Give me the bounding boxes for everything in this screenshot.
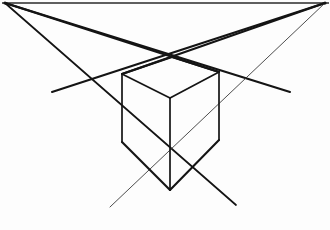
construction-lines-left-vp xyxy=(5,3,290,205)
left-vanishing-point-marker xyxy=(3,1,6,4)
construction-vpl-to-bottom-right xyxy=(5,3,236,205)
construction-lines-right-vp xyxy=(52,3,325,207)
right-vanishing-point-marker xyxy=(323,1,326,4)
edge-top-front-to-right xyxy=(172,57,219,72)
perspective-drawing-canvas: Two-Point Perspective Cube Construction … xyxy=(0,0,330,230)
edge-top-left-to-front xyxy=(122,57,172,74)
edge-top-left-to-near xyxy=(122,74,170,98)
edge-bottom-right-to-near xyxy=(170,140,219,190)
perspective-drawing-svg xyxy=(0,0,330,230)
edge-top-right-to-near xyxy=(170,72,219,98)
construction-vpr-to-bottom-left xyxy=(110,3,325,207)
edge-bottom-left-to-near xyxy=(122,142,170,190)
box-edges xyxy=(122,57,219,190)
